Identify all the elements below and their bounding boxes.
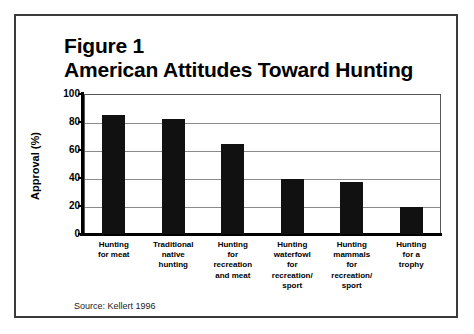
x-label-line: for bbox=[202, 250, 264, 260]
x-label-line: recreation bbox=[202, 260, 264, 270]
bar-5 bbox=[400, 207, 423, 234]
bar-4 bbox=[340, 182, 363, 234]
x-axis-category-labels: Huntingfor meatTraditionalnativehuntingH… bbox=[84, 240, 441, 302]
bar-1 bbox=[162, 119, 185, 234]
y-tick-label-80: 80 bbox=[52, 117, 80, 127]
x-label-line: sport bbox=[261, 281, 323, 291]
x-label-line: Hunting bbox=[202, 240, 264, 250]
bar-2 bbox=[221, 144, 244, 234]
x-label-3: Huntingwaterfowlforrecreation/sport bbox=[261, 240, 323, 291]
x-label-line: Hunting bbox=[261, 240, 323, 250]
x-label-2: Huntingforrecreationand meat bbox=[202, 240, 264, 281]
x-label-line: Hunting bbox=[83, 240, 145, 250]
figure-root: Figure 1 American Attitudes Toward Hunti… bbox=[0, 0, 474, 334]
source-note: Source: Kellert 1996 bbox=[74, 301, 156, 311]
x-label-line: waterfowl bbox=[261, 250, 323, 260]
x-label-5: Huntingfor atrophy bbox=[380, 240, 442, 271]
x-label-line: Hunting bbox=[380, 240, 442, 250]
title-line-main: American Attitudes Toward Hunting bbox=[64, 58, 464, 82]
x-label-line: recreation/ bbox=[321, 271, 383, 281]
x-label-line: for bbox=[261, 260, 323, 270]
y-tick-label-100: 100 bbox=[52, 89, 80, 99]
y-tickmark-80 bbox=[78, 121, 83, 123]
x-label-line: for a bbox=[380, 250, 442, 260]
y-tickmark-0 bbox=[78, 233, 83, 235]
page-title: Figure 1 American Attitudes Toward Hunti… bbox=[64, 34, 464, 81]
y-tick-label-0: 0 bbox=[52, 229, 80, 239]
bar-3 bbox=[281, 179, 304, 234]
x-label-line: sport bbox=[321, 281, 383, 291]
x-label-line: native bbox=[142, 250, 204, 260]
x-label-line: Traditional bbox=[142, 240, 204, 250]
x-label-line: for bbox=[321, 260, 383, 270]
x-label-line: and meat bbox=[202, 271, 264, 281]
bar-0 bbox=[102, 115, 125, 234]
x-label-0: Huntingfor meat bbox=[83, 240, 145, 260]
y-tickmark-40 bbox=[78, 177, 83, 179]
y-tick-label-20: 20 bbox=[52, 201, 80, 211]
bar-series bbox=[84, 94, 441, 234]
y-tick-label-40: 40 bbox=[52, 173, 80, 183]
x-label-line: hunting bbox=[142, 260, 204, 270]
x-label-4: Huntingmammalsforrecreation/sport bbox=[321, 240, 383, 291]
y-tickmark-20 bbox=[78, 205, 83, 207]
x-label-line: trophy bbox=[380, 260, 442, 270]
x-label-line: recreation/ bbox=[261, 271, 323, 281]
y-axis-tick-labels: 020406080100 bbox=[48, 94, 80, 234]
y-tickmark-100 bbox=[78, 93, 83, 95]
x-label-line: Hunting bbox=[321, 240, 383, 250]
y-tick-label-60: 60 bbox=[52, 145, 80, 155]
figure-border: Figure 1 American Attitudes Toward Hunti… bbox=[14, 14, 458, 318]
title-line-figure-number: Figure 1 bbox=[64, 34, 464, 58]
y-axis-title: Approval (%) bbox=[29, 111, 41, 221]
x-label-line: mammals bbox=[321, 250, 383, 260]
x-label-line: for meat bbox=[83, 250, 145, 260]
y-tickmark-60 bbox=[78, 149, 83, 151]
x-label-1: Traditionalnativehunting bbox=[142, 240, 204, 271]
